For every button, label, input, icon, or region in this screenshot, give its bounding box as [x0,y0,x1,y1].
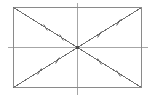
tick-upper-left-outer [44,25,48,31]
center-point [76,46,79,49]
diagram-canvas [0,0,155,98]
geometry-figure [0,0,155,98]
tick-upper-left-inner [60,35,64,41]
